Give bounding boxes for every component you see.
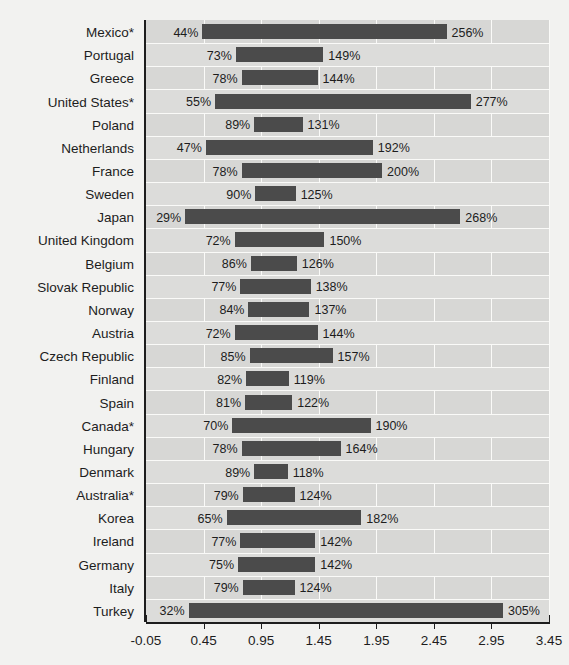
category-label: Greece [0, 72, 134, 86]
bar-start-label: 73% [186, 50, 232, 63]
bar-start-label: 70% [182, 420, 228, 433]
gridline-horizontal [146, 275, 549, 276]
bar [242, 163, 382, 178]
bar [251, 256, 297, 271]
x-axis-tick [146, 615, 147, 623]
bar [254, 117, 302, 132]
category-label: Ireland [0, 535, 134, 549]
x-axis-tick [434, 622, 435, 629]
gridline-horizontal [146, 298, 549, 299]
bar-end-label: 126% [302, 258, 334, 271]
bar-start-label: 55% [165, 96, 211, 109]
bar-start-label: 65% [177, 513, 223, 526]
bar-start-label: 72% [185, 235, 231, 248]
gridline-horizontal [146, 113, 549, 114]
gridline-horizontal [146, 344, 549, 345]
gridline-horizontal [146, 43, 549, 44]
bar-end-label: 125% [301, 189, 333, 202]
category-label: United Kingdom [0, 234, 134, 248]
x-axis-tick [376, 622, 377, 629]
category-label: Netherlands [0, 142, 134, 156]
category-label: Canada* [0, 420, 134, 434]
category-label: Slovak Republic [0, 281, 134, 295]
x-axis-tick [204, 622, 205, 629]
gridline-horizontal [146, 506, 549, 507]
gridline-horizontal [146, 414, 549, 415]
bar-end-label: 124% [300, 490, 332, 503]
gridline-horizontal [146, 89, 549, 90]
bar-start-label: 75% [188, 559, 234, 572]
category-label: Australia* [0, 489, 134, 503]
gridline-horizontal [146, 599, 549, 600]
bar-end-label: 138% [316, 281, 348, 294]
bar [245, 395, 292, 410]
gridline-horizontal [146, 205, 549, 206]
x-axis-tick-label: -0.05 [116, 634, 176, 648]
bar [250, 348, 333, 363]
bar [227, 510, 362, 525]
bar-start-label: 81% [195, 397, 241, 410]
plot-area: 44%256%73%149%78%144%55%277%89%131%47%19… [146, 20, 549, 622]
gridline-horizontal [146, 553, 549, 554]
bar-start-label: 47% [156, 142, 202, 155]
x-axis-tick-label: 1.45 [289, 634, 349, 648]
bar-start-label: 79% [193, 582, 239, 595]
category-label: Turkey [0, 605, 134, 619]
bar-start-label: 44% [152, 27, 198, 40]
bar [242, 70, 318, 85]
bar [189, 603, 503, 618]
bar-end-label: 124% [300, 582, 332, 595]
category-label: Korea [0, 512, 134, 526]
bar-start-label: 90% [205, 189, 251, 202]
gridline-horizontal [146, 321, 549, 322]
bar-start-label: 79% [193, 490, 239, 503]
bar-start-label: 84% [198, 304, 244, 317]
bar-start-label: 77% [190, 536, 236, 549]
bar [206, 140, 373, 155]
bar-end-label: 305% [508, 605, 540, 618]
bar-end-label: 142% [320, 536, 352, 549]
bar-end-label: 277% [476, 96, 508, 109]
category-label: Mexico* [0, 26, 134, 40]
bar-start-label: 78% [192, 73, 238, 86]
x-axis-tick-label: 1.95 [346, 634, 406, 648]
gridline-horizontal [146, 460, 549, 461]
category-label: Denmark [0, 466, 134, 480]
bar [242, 441, 341, 456]
bar-end-label: 119% [294, 374, 325, 387]
bar-end-label: 268% [465, 212, 497, 225]
bar-end-label: 157% [338, 351, 370, 364]
gridline-horizontal [146, 390, 549, 391]
category-label: Poland [0, 119, 134, 133]
category-label: Germany [0, 559, 134, 573]
x-axis-line [146, 622, 550, 624]
x-axis-tick-label: 2.95 [461, 634, 521, 648]
category-label: Japan [0, 211, 134, 225]
bar-end-label: 144% [323, 73, 355, 86]
gridline-horizontal [146, 228, 549, 229]
x-axis-tick-label: 2.45 [404, 634, 464, 648]
x-axis-tick [491, 622, 492, 629]
category-label: Czech Republic [0, 350, 134, 364]
gridline-vertical [549, 20, 550, 622]
gridline-horizontal [146, 529, 549, 530]
category-label: Spain [0, 397, 134, 411]
bar-end-label: 256% [452, 27, 484, 40]
x-axis-tick-label: 3.45 [519, 634, 569, 648]
category-label: Sweden [0, 188, 134, 202]
bar-end-label: 190% [376, 420, 408, 433]
gridline-horizontal [146, 136, 549, 137]
gridline-horizontal [146, 159, 549, 160]
category-axis: Mexico*PortugalGreeceUnited States*Polan… [0, 20, 140, 622]
bar-start-label: 89% [204, 119, 250, 132]
bar-start-label: 86% [201, 258, 247, 271]
bar [248, 302, 309, 317]
bar [202, 24, 446, 39]
category-label: Portugal [0, 49, 134, 63]
gridline-horizontal [146, 66, 549, 67]
category-label: Finland [0, 373, 134, 387]
bar-start-label: 78% [192, 166, 238, 179]
category-label: France [0, 165, 134, 179]
x-axis-tick-label: 0.45 [174, 634, 234, 648]
gridline-horizontal [146, 576, 549, 577]
